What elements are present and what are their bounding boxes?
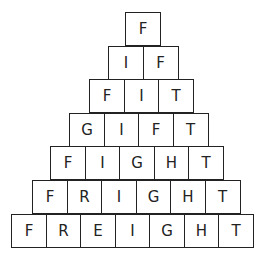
letter-box: T [188, 146, 224, 180]
letter-box: F [89, 79, 125, 113]
letter-box: F [143, 46, 179, 80]
letter-box: I [108, 46, 144, 80]
letter-box: I [104, 113, 140, 147]
letter-box: F [50, 146, 86, 180]
letter-box: T [218, 214, 254, 248]
letter-box: F [11, 214, 47, 248]
letter-box: G [119, 146, 155, 180]
letter-box: G [149, 214, 185, 248]
letter-box: I [101, 180, 137, 214]
letter-box: E [80, 214, 116, 248]
letter-box: I [124, 79, 160, 113]
pyramid-row-6: F R I G H T [32, 180, 241, 214]
letter-box: R [46, 214, 82, 248]
letter-box: T [205, 180, 241, 214]
pyramid-row-5: F I G H T [50, 146, 224, 180]
pyramid-row-4: G I F T [69, 113, 209, 147]
letter-box: F [125, 12, 161, 46]
pyramid-row-7: F R E I G H T [11, 214, 254, 248]
letter-box: G [136, 180, 172, 214]
letter-box: H [184, 214, 220, 248]
letter-box: I [85, 146, 121, 180]
letter-box: H [154, 146, 190, 180]
letter-box: F [138, 113, 174, 147]
letter-box: I [115, 214, 151, 248]
letter-box: T [158, 79, 194, 113]
letter-box: G [69, 113, 105, 147]
letter-box: F [32, 180, 68, 214]
letter-box: H [170, 180, 206, 214]
pyramid-row-2: I F [108, 46, 179, 80]
letter-box: T [173, 113, 209, 147]
pyramid-row-1: F [125, 12, 161, 46]
pyramid-row-3: F I T [89, 79, 194, 113]
letter-box: R [67, 180, 103, 214]
